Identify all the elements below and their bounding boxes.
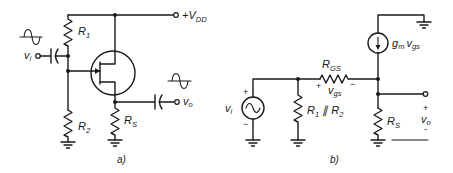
vgs-label: vgs bbox=[328, 84, 342, 98]
vdd-label: +VDD bbox=[182, 9, 207, 24]
r2-label: R2 bbox=[78, 120, 91, 135]
output-capacitor-icon bbox=[115, 95, 174, 109]
panel-b-caption: b) bbox=[330, 154, 339, 165]
ground-icon bbox=[291, 140, 305, 146]
panel-b-small-signal-model: + − vi R1 ∥ R2 RGS + − vgs gmvgs + vo - bbox=[225, 15, 431, 165]
r1-label: R1 bbox=[78, 25, 90, 40]
rs-label: RS bbox=[124, 114, 137, 129]
r1-parallel-r2-resistor-icon bbox=[294, 79, 302, 140]
circuit-diagram: +VDD R1 vi vo R2 bbox=[0, 0, 453, 173]
rgs-resistor-icon bbox=[320, 75, 378, 83]
vo-label: vo bbox=[183, 95, 193, 109]
vo-terminal bbox=[175, 100, 180, 105]
vdd-terminal bbox=[174, 13, 179, 18]
rgs-label: RGS bbox=[322, 58, 341, 73]
vi-minus-sign: − bbox=[243, 119, 248, 129]
rs-label: RS bbox=[387, 115, 400, 130]
ground-icon bbox=[417, 22, 431, 28]
ground-icon bbox=[61, 142, 75, 148]
r1-resistor-icon bbox=[64, 15, 72, 56]
vi-label: vi bbox=[24, 49, 32, 63]
drain-to-ground-wire bbox=[378, 15, 424, 33]
panel-a-jfet-source-follower: +VDD R1 vi vo R2 bbox=[20, 9, 207, 165]
rs-resistor-icon bbox=[111, 102, 119, 140]
vgs-minus-sign: − bbox=[350, 79, 355, 89]
jfet-transistor-icon bbox=[91, 15, 135, 102]
r1-parallel-r2-label: R1 ∥ R2 bbox=[307, 104, 344, 119]
vgs-plus-sign: + bbox=[316, 81, 321, 91]
ground-icon bbox=[108, 140, 122, 146]
vo-plus-sign: + bbox=[423, 103, 428, 113]
ground-icon bbox=[246, 140, 260, 146]
output-sine-wave-icon bbox=[168, 74, 191, 89]
panel-a-caption: a) bbox=[117, 154, 126, 165]
tilde-icon bbox=[246, 104, 260, 113]
vo-terminal bbox=[423, 92, 428, 97]
r2-resistor-icon bbox=[64, 110, 72, 142]
input-capacitor-icon bbox=[40, 49, 68, 63]
gm-vgs-label: gmvgs bbox=[392, 37, 420, 51]
vi-plus-sign: + bbox=[243, 87, 248, 97]
vi-label: vi bbox=[225, 102, 233, 116]
rs-resistor-icon bbox=[374, 108, 382, 140]
input-sine-wave-icon bbox=[20, 30, 42, 45]
vo-minus-sign: - bbox=[424, 124, 427, 134]
ground-icon bbox=[371, 140, 385, 146]
